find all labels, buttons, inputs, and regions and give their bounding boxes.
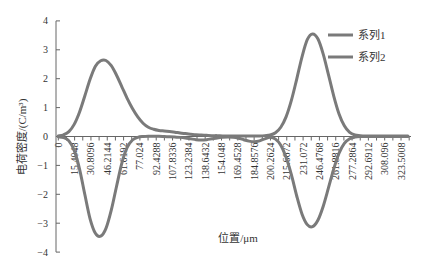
x-tick-label: 107.8336 [167,143,178,181]
x-tick-label: 246.4768 [314,143,325,181]
legend: 系列1 系列2 [328,28,386,63]
x-tick-label: 154.048 [216,143,227,176]
chart: 43210−1−2−3−4 015.404830.809646.214461.6… [0,0,423,268]
y-tick-label: −3 [37,218,48,229]
y-tick-label: 3 [43,44,48,55]
y-tick-label: −2 [37,189,48,200]
x-tick-label: 138.6432 [200,143,211,181]
legend-label-series-2: 系列2 [358,50,386,63]
y-tick-label: −4 [37,247,48,258]
x-tick-label: 46.2144 [102,143,113,176]
y-tick-label: 4 [43,15,48,26]
x-axis: 015.404830.809646.214461.619277.02492.42… [53,137,411,181]
legend-item-series-1: 系列1 [328,28,386,41]
x-tick-label: 169.4528 [232,143,243,181]
y-tick-label: 1 [43,102,48,113]
x-tick-label: 92.4288 [151,143,162,176]
series-1-line [58,34,408,136]
series-layer [58,34,408,237]
x-axis-title: 位置/μm [218,231,258,244]
legend-item-series-2: 系列2 [328,50,386,63]
x-tick-label: 292.6912 [363,143,374,181]
x-tick-label: 200.2624 [265,143,276,181]
x-tick-label: 277.2864 [347,143,358,181]
x-tick-label: 184.8576 [249,143,260,181]
x-tick-label: 323.5008 [396,143,407,181]
y-axis-title: 电荷密度/(C/m³) [15,98,29,175]
y-tick-label: −1 [37,160,48,171]
y-tick-label: 0 [43,131,48,142]
x-tick-label: 30.8096 [85,143,96,176]
legend-label-series-1: 系列1 [358,28,386,41]
x-tick-label: 123.2384 [183,143,194,181]
y-tick-label: 2 [43,73,48,84]
x-tick-label: 0 [53,143,64,148]
x-tick-label: 77.024 [134,143,145,171]
x-tick-label: 231.072 [298,143,309,176]
x-tick-label: 308.096 [379,143,390,176]
